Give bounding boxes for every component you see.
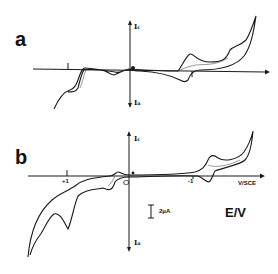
panel-b-tick-zero-label: O [123, 178, 129, 187]
panel-a-ia-label: Ia [134, 98, 141, 107]
panel-a-x-arrow [265, 70, 270, 75]
panel-b-y-arrow-top [127, 131, 131, 136]
panel-b-ic-label: Ic [134, 134, 140, 143]
panel-a-start-dot [131, 66, 135, 70]
panel-a-cv-curve-outer [54, 16, 256, 109]
panel-b-label: b [15, 146, 27, 169]
panel-b-tick-plus1-label: +1 [62, 178, 69, 184]
axis-title-ev: E/V [225, 205, 246, 220]
panel-b-tick-minus1-label: -1 [188, 178, 193, 184]
panel-b-x-unit: V/SCE [238, 180, 256, 186]
scale-bar-label: 2μA [159, 208, 170, 214]
panel-a-cv-curve-inner [80, 58, 228, 88]
panel-b-start-dot [132, 172, 135, 175]
panel-a-y-arrow-top [128, 20, 132, 25]
panel-b-ia-sub: a [137, 240, 140, 246]
panel-b-y-arrow-bottom [127, 247, 131, 252]
panel-b-ic-sub: c [137, 136, 140, 142]
panel-a-ic-label: Ic [134, 22, 140, 31]
panel-b-ia-label: Ia [134, 238, 141, 247]
panel-a-label: a [15, 28, 26, 51]
panel-a-y-arrow-bottom [128, 103, 132, 108]
panel-a-ia-sub: a [137, 100, 140, 106]
panel-b-x-arrow [260, 174, 265, 179]
panel-a-ic-sub: c [137, 24, 140, 30]
